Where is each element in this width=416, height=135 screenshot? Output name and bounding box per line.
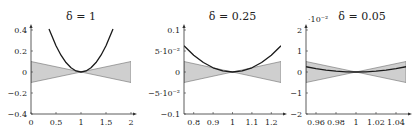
x-tick-label: 0.98 xyxy=(327,118,345,127)
y-tick-label: −0.4 xyxy=(8,110,27,119)
y-tick-label: 0 xyxy=(22,68,27,77)
x-axis-arrow-icon xyxy=(133,112,137,115)
y-axis-arrow-icon xyxy=(29,24,32,28)
x-tick-label: 0 xyxy=(28,118,33,127)
y-tick-label: 0.1 xyxy=(167,26,180,35)
parabola-curve xyxy=(49,29,113,72)
y-tick-label: 0 xyxy=(175,68,180,77)
x-tick-label: 1.2 xyxy=(265,118,278,127)
x-tick-label: 1.1 xyxy=(246,118,259,127)
y-exponent-label: ·10⁻² xyxy=(308,15,328,24)
x-tick-label: 1.04 xyxy=(387,118,405,127)
y-tick-label: −0.1 xyxy=(161,110,180,119)
x-tick-label: 1 xyxy=(78,118,83,127)
x-tick-label: 1.02 xyxy=(367,118,385,127)
y-tick-label: 1 xyxy=(297,47,302,56)
x-tick-label: 0.9 xyxy=(207,118,220,127)
y-tick-label: 0 xyxy=(297,68,302,77)
y-tick-label: −0.2 xyxy=(8,89,27,98)
x-tick-label: 0.96 xyxy=(307,118,325,127)
x-tick-label: 1 xyxy=(230,118,235,127)
chart-title: δ = 0.05 xyxy=(338,10,385,23)
chart-title: δ = 1 xyxy=(66,10,96,23)
y-tick-label: 0.4 xyxy=(14,26,27,35)
x-tick-label: 0.8 xyxy=(187,118,200,127)
x-tick-label: 2 xyxy=(128,118,133,127)
y-tick-label: 0.2 xyxy=(14,47,27,56)
x-tick-label: 0.5 xyxy=(50,118,63,127)
x-tick-label: 1.5 xyxy=(100,118,113,127)
figure-canvas: 00.511.52−0.4−0.200.20.4δ = 1 0.80.911.1… xyxy=(0,0,416,135)
x-tick-label: 1 xyxy=(353,118,358,127)
chart-panel-delta-1: 00.511.52−0.4−0.200.20.4δ = 1 xyxy=(8,10,137,127)
y-tick-label: −1 xyxy=(290,89,302,98)
chart-title: δ = 0.25 xyxy=(209,10,256,23)
y-axis-arrow-icon xyxy=(304,24,307,28)
y-tick-label: −2 xyxy=(290,110,302,119)
y-tick-label: 2 xyxy=(297,26,302,35)
figure: 00.511.52−0.4−0.200.20.4δ = 1 0.80.911.1… xyxy=(0,0,416,135)
y-axis-arrow-icon xyxy=(182,24,185,28)
y-tick-label: 5·10⁻² xyxy=(155,47,180,56)
y-tick-label: −5·10⁻² xyxy=(148,89,180,98)
chart-panel-delta-0-25: 0.80.911.11.2−0.1−5·10⁻²05·10⁻²0.1δ = 0.… xyxy=(148,10,287,127)
chart-panel-delta-0-05: 0.960.9811.021.04−2−1012·10⁻²δ = 0.05 xyxy=(290,10,412,127)
x-axis-arrow-icon xyxy=(408,112,412,115)
x-axis-arrow-icon xyxy=(283,112,287,115)
